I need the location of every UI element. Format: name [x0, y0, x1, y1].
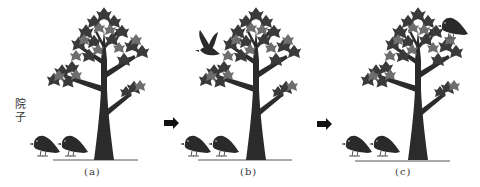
panel-a [29, 7, 149, 160]
ground-bird [180, 136, 211, 156]
ground-bird [341, 136, 372, 156]
panel-c [341, 7, 468, 161]
tree [47, 7, 149, 160]
ground-bird [208, 136, 239, 156]
caption-a: (a) [84, 166, 101, 177]
ground-bird [369, 136, 400, 156]
caption-b: (b) [240, 166, 257, 177]
bird-tree-diagram [0, 0, 480, 187]
flying-bird [195, 30, 220, 55]
yard-label: 院子 [15, 98, 27, 124]
ground-bird [57, 136, 88, 156]
caption-c: (c) [395, 166, 411, 177]
right-arrow-icon [317, 118, 332, 130]
tree [199, 7, 301, 160]
ground-bird [29, 136, 60, 156]
perched-bird [437, 18, 468, 38]
right-arrow-icon [164, 117, 179, 129]
panel-b [180, 7, 301, 160]
